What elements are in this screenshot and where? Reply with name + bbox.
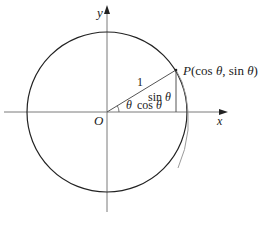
angle-label: θ xyxy=(126,98,132,112)
radius-label: 1 xyxy=(137,75,143,89)
unit-circle-diagram: y x O P(cos θ, sin θ) 1 sin θ θ cos θ xyxy=(0,0,270,226)
y-axis-arrow-icon xyxy=(104,5,110,14)
origin-label: O xyxy=(94,113,104,128)
point-p-label: P(cos θ, sin θ) xyxy=(182,63,258,78)
angle-arc xyxy=(117,106,119,112)
cosine-label: cos θ xyxy=(137,98,162,112)
point-p-dot xyxy=(175,69,178,72)
x-axis-label: x xyxy=(216,114,223,128)
y-axis-label: y xyxy=(95,5,103,20)
